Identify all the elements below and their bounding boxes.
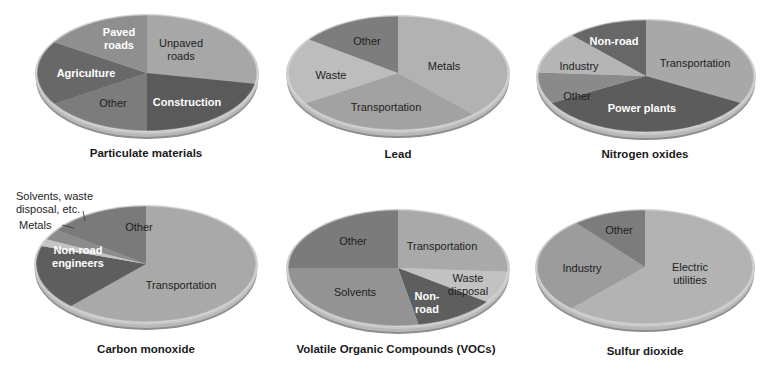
slice-label-transportation: Transportation — [146, 279, 217, 292]
pie-panel-nitrogen-oxides: Non-road Industry Transportation Other P… — [510, 0, 769, 185]
slice-label-unpaved-roads: Unpaved roads — [159, 37, 203, 63]
slice-label-metals: Metals — [19, 219, 51, 232]
slice-label-other: Other — [605, 224, 633, 237]
chart-title-lead: Lead — [385, 148, 412, 160]
slice-label-waste: Waste — [316, 69, 347, 82]
slice-label-non-road: Non- road — [414, 290, 439, 316]
slice-label-industry: Industry — [559, 60, 598, 73]
slice-label-solvents-waste: Solvents, waste disposal, etc. — [16, 190, 93, 216]
slice-label-waste-disposal: Waste disposal — [448, 272, 488, 298]
pie-panel-particulate: Paved roads Unpaved roads Agriculture Ot… — [0, 0, 260, 185]
slice-label-other: Other — [99, 97, 127, 110]
pie-panel-vocs: Other Transportation Waste disposal Solv… — [250, 185, 510, 370]
pie-chart-sulfur-dioxide — [510, 185, 769, 370]
pie-panel-sulfur-dioxide: Other Industry Electric utilities Sulfur… — [510, 185, 769, 370]
chart-title-carbon-monoxide: Carbon monoxide — [97, 343, 195, 355]
slice-label-electric-utilities: Electric utilities — [672, 261, 708, 287]
slice-label-construction: Construction — [153, 96, 221, 109]
pie-panel-carbon-monoxide: Solvents, waste disposal, etc. Metals Ot… — [0, 185, 260, 370]
chart-title-nitrogen-oxides: Nitrogen oxides — [602, 148, 689, 160]
slice-label-other: Other — [563, 90, 591, 103]
slice-label-non-road-engineers: Non-road engineers — [52, 244, 104, 270]
slice-label-industry: Industry — [562, 262, 601, 275]
slice-label-transportation: Transportation — [407, 240, 478, 253]
chart-title-vocs: Volatile Organic Compounds (VOCs) — [296, 343, 495, 355]
slice-label-solvents: Solvents — [334, 286, 376, 299]
slice-label-agriculture: Agriculture — [57, 67, 116, 80]
slice-label-paved-roads: Paved roads — [103, 26, 135, 52]
slice-label-metals: Metals — [428, 60, 460, 73]
slice-label-other: Other — [125, 221, 153, 234]
slice-label-power-plants: Power plants — [608, 102, 676, 115]
pie-chart-lead — [250, 0, 510, 185]
slice-label-transportation: Transportation — [351, 101, 422, 114]
slice-label-other: Other — [353, 35, 381, 48]
slice-label-other: Other — [339, 235, 367, 248]
chart-title-particulate: Particulate materials — [90, 147, 203, 159]
chart-title-sulfur-dioxide: Sulfur dioxide — [607, 345, 684, 357]
pie-panel-lead: Other Metals Waste Transportation Lead — [250, 0, 510, 185]
slice-label-non-road: Non-road — [590, 35, 639, 48]
slice-label-transportation: Transportation — [660, 57, 731, 70]
